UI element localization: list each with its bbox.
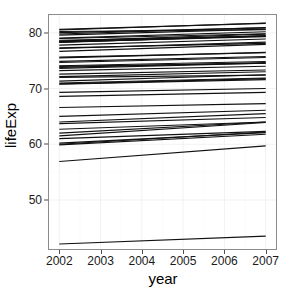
y-tick-label: 60	[18, 137, 42, 151]
y-tick-mark	[44, 88, 48, 89]
y-tick-label: 70	[18, 82, 42, 96]
y-axis-title-text: lifeExp	[3, 102, 20, 147]
x-tick-label: 2003	[87, 254, 114, 268]
chart-container: lifeExp 50607080 20022003200420052006200…	[0, 0, 293, 296]
y-tick-mark	[44, 32, 48, 33]
x-tick-mark	[183, 250, 184, 254]
x-tick-label: 2005	[170, 254, 197, 268]
y-tick-label: 50	[18, 193, 42, 207]
x-tick-label: 2004	[129, 254, 156, 268]
y-tick-label: 80	[18, 26, 42, 40]
x-tick-label: 2006	[211, 254, 238, 268]
x-tick-mark	[142, 250, 143, 254]
y-axis-ticks: 50607080	[18, 0, 42, 296]
x-tick-mark	[224, 250, 225, 254]
x-tick-label: 2007	[252, 254, 279, 268]
plot-lines-svg	[49, 15, 276, 249]
x-axis-title: year	[48, 270, 278, 287]
x-tick-label: 2002	[46, 254, 73, 268]
x-tick-mark	[266, 250, 267, 254]
y-tick-mark	[44, 199, 48, 200]
plot-panel	[48, 14, 277, 250]
x-tick-mark	[59, 250, 60, 254]
x-tick-mark	[101, 250, 102, 254]
y-tick-mark	[44, 144, 48, 145]
